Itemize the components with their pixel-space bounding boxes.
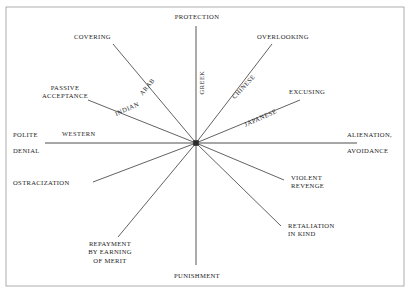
outcome-label-violent-revenge: VIOLENT REVENGE [291,174,324,191]
radial-diagram-figure: PROTECTION PUNISHMENT POLITE DENIAL ALIE… [0,0,410,293]
outcome-label-passive-acceptance: PASSIVE ACCEPTANCE [38,84,92,101]
outcome-label-overlooking: OVERLOOKING [257,33,309,41]
spoke-repayment [118,143,196,237]
spoke-passive-acceptance-indian [88,100,196,143]
culture-label-greek: GREEK [198,71,205,95]
outcome-label-ostracization: OSTRACIZATION [13,179,70,187]
axis-label-avoidance: AVOIDANCE [347,147,389,155]
axis-label-denial: DENIAL [13,147,40,155]
outcome-label-repayment: REPAYMENT BY EARNING OF MERIT [78,240,142,265]
axis-label-punishment: PUNISHMENT [152,272,242,280]
spoke-violent-revenge [196,143,284,180]
spoke-retaliation [196,143,281,226]
outcome-label-retaliation: RETALIATION IN KIND [288,222,335,239]
axis-label-alienation: ALIENATION, [347,131,392,139]
axis-label-protection: PROTECTION [152,13,242,21]
outcome-label-excusing: EXCUSING [289,88,325,96]
outcome-label-covering: COVERING [74,33,111,41]
spoke-covering-arab [113,44,196,143]
axis-label-polite: POLITE [13,131,38,139]
center-hub [193,140,199,146]
spoke-ostracization [93,143,196,182]
culture-label-western: WESTERN [62,130,96,137]
